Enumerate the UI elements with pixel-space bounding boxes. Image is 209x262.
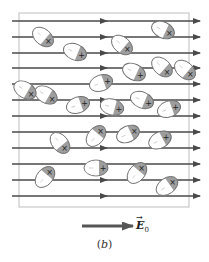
- plus-sign-icon: +: [100, 164, 107, 173]
- field-line-arrow-icon: [100, 50, 108, 56]
- plus-sign-icon: ×: [138, 164, 145, 173]
- plus-sign-icon: ×: [46, 168, 53, 177]
- plus-sign-icon: +: [78, 51, 85, 60]
- field-label: →E0: [136, 219, 149, 234]
- molecules: ×+×××++×++++×××++×××××: [10, 17, 201, 200]
- plus-sign-icon: ×: [166, 29, 173, 38]
- caption-letter: b: [101, 238, 108, 251]
- plus-sign-icon: ×: [169, 178, 176, 187]
- plus-sign-icon: ×: [28, 90, 35, 99]
- polar-molecule: +: [61, 39, 91, 65]
- plus-sign-icon: ×: [124, 45, 131, 54]
- dipole-field-diagram: ×+×××++×++++×××++×××××: [0, 0, 209, 262]
- field-line-arrow-icon: [100, 34, 108, 40]
- polar-molecule: +: [128, 87, 158, 113]
- plus-sign-icon: +: [104, 77, 111, 86]
- field-line-arrow-icon: [100, 65, 108, 71]
- plus-sign-icon: +: [81, 99, 88, 108]
- field-line-arrow-icon: [100, 145, 108, 151]
- plus-sign-icon: +: [145, 99, 152, 108]
- plus-sign-icon: ×: [131, 127, 138, 136]
- plus-sign-icon: ×: [45, 37, 52, 46]
- polar-molecule: +: [145, 126, 176, 154]
- polar-molecule: +: [87, 70, 117, 95]
- polar-molecule: ×: [113, 120, 143, 147]
- field-line-arrow-icon: [100, 177, 108, 183]
- plus-sign-icon: ×: [164, 68, 171, 77]
- plus-sign-icon: ×: [187, 70, 194, 79]
- polar-molecule: ×: [30, 161, 60, 192]
- field-vector-arrow-icon: →: [136, 212, 143, 222]
- plus-sign-icon: +: [137, 71, 144, 80]
- polar-molecule: ×: [107, 30, 138, 60]
- field-line-arrow-icon: [100, 193, 108, 199]
- field-line-arrow-icon: [100, 18, 108, 24]
- plus-sign-icon: ×: [49, 95, 56, 104]
- plus-sign-icon: +: [172, 103, 179, 112]
- polar-molecule: +: [119, 59, 149, 86]
- plus-sign-icon: ×: [61, 144, 68, 153]
- polar-molecule: ×: [170, 55, 201, 85]
- plus-sign-icon: ×: [97, 127, 104, 136]
- polar-molecule: +: [64, 92, 94, 117]
- polar-molecule: +: [84, 159, 109, 177]
- plus-sign-icon: +: [163, 133, 170, 142]
- figure-caption: (b): [0, 238, 209, 251]
- field-subscript: 0: [144, 226, 148, 234]
- polar-molecule: ×: [81, 120, 111, 151]
- plus-sign-icon: +: [115, 105, 122, 114]
- polar-molecule: ×: [122, 157, 152, 188]
